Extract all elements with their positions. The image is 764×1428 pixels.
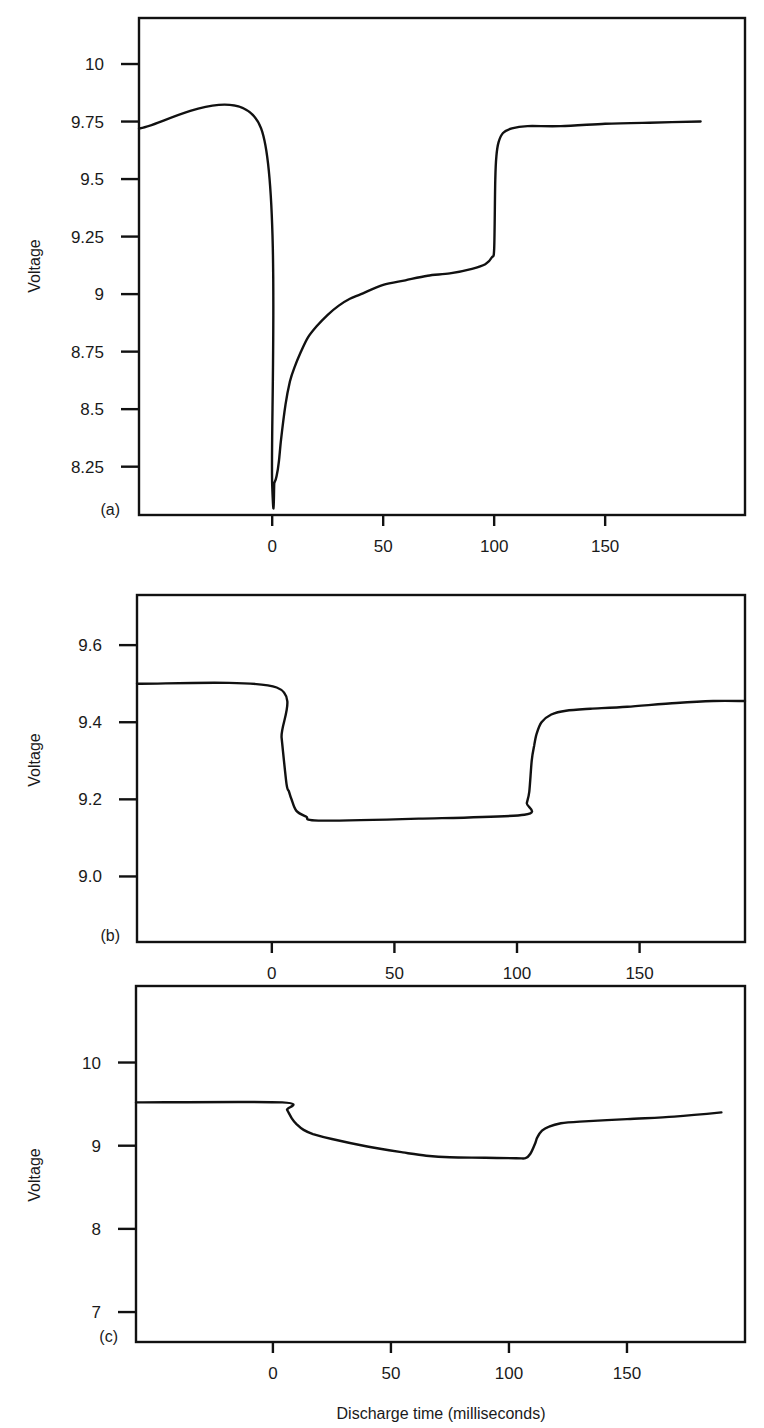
y-tick-label: 9.2 — [78, 790, 102, 809]
x-tick-label: 150 — [613, 1364, 641, 1383]
voltage-line — [136, 1102, 721, 1159]
x-tick-label: 100 — [495, 1364, 523, 1383]
panel-label: (b) — [100, 927, 120, 944]
y-tick-label: 7 — [92, 1303, 101, 1322]
plot-frame — [139, 18, 745, 515]
plot-frame — [137, 595, 745, 942]
x-tick-label: 0 — [268, 1364, 277, 1383]
chart-panel-a: Voltage (a) 109.759.59.2598.758.58.25 05… — [26, 18, 745, 556]
y-tick-label: 9 — [92, 1137, 101, 1156]
voltage-line — [139, 105, 701, 509]
y-tick-label: 8 — [92, 1220, 101, 1239]
y-tick-label: 9.5 — [80, 170, 104, 189]
y-axis-label: Voltage — [26, 239, 43, 292]
y-ticks: 9.69.49.29.0 — [78, 636, 137, 886]
x-tick-label: 50 — [374, 537, 393, 556]
y-tick-label: 8.25 — [71, 458, 104, 477]
panel-label: (c) — [99, 1328, 118, 1345]
y-tick-label: 9.0 — [78, 867, 102, 886]
panel-label: (a) — [100, 501, 120, 518]
y-axis-label: Voltage — [26, 1148, 43, 1201]
x-ticks: 050100150 — [268, 1342, 641, 1383]
x-tick-label: 0 — [267, 537, 276, 556]
x-tick-label: 50 — [385, 964, 404, 983]
y-tick-label: 9.25 — [71, 228, 104, 247]
x-tick-label: 150 — [625, 964, 653, 983]
y-tick-label: 8.75 — [71, 343, 104, 362]
plot-frame — [136, 986, 745, 1342]
x-tick-label: 150 — [591, 537, 619, 556]
y-tick-label: 9.6 — [78, 636, 102, 655]
y-tick-label: 9.4 — [78, 713, 102, 732]
y-ticks: 10987 — [82, 1054, 136, 1323]
chart-panel-c: Voltage (c) 10987 050100150 Discharge ti… — [26, 986, 745, 1422]
x-ticks: 050100150 — [267, 515, 619, 556]
x-axis-label: Discharge time (milliseconds) — [337, 1405, 546, 1422]
y-ticks: 109.759.59.2598.758.58.25 — [71, 55, 139, 477]
voltage-line — [137, 683, 745, 821]
y-tick-label: 8.5 — [80, 400, 104, 419]
y-axis-label: Voltage — [26, 733, 43, 786]
x-tick-label: 50 — [381, 1364, 400, 1383]
y-tick-label: 9 — [95, 285, 104, 304]
figure: Voltage (a) 109.759.59.2598.758.58.25 05… — [0, 0, 764, 1428]
x-tick-label: 0 — [267, 964, 276, 983]
chart-panel-b: Voltage (b) 9.69.49.29.0 050100150 — [26, 595, 745, 983]
x-ticks: 050100150 — [267, 942, 654, 983]
y-tick-label: 10 — [85, 55, 104, 74]
y-tick-label: 10 — [82, 1054, 101, 1073]
y-tick-label: 9.75 — [71, 113, 104, 132]
x-tick-label: 100 — [503, 964, 531, 983]
x-tick-label: 100 — [480, 537, 508, 556]
